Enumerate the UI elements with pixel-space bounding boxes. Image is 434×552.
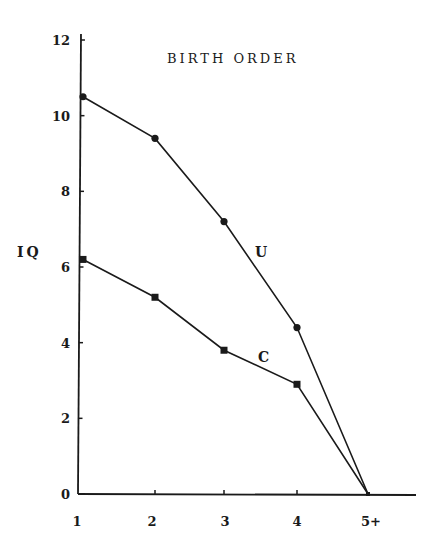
y-tick-label: 2 — [61, 411, 70, 426]
axes — [78, 34, 416, 495]
x-ticks: 12345+ — [72, 490, 381, 529]
square-marker-icon — [80, 256, 87, 263]
y-tick-label: 6 — [61, 260, 70, 275]
series-label: C — [258, 349, 269, 365]
circle-marker-icon — [79, 93, 86, 100]
x-tick-label: 5+ — [361, 514, 381, 529]
y-tick-label: 8 — [61, 184, 70, 199]
series-label: U — [255, 244, 267, 260]
y-tick-label: 4 — [61, 336, 70, 351]
series-line — [83, 259, 368, 494]
y-tick-label: 0 — [61, 487, 70, 502]
square-marker-icon — [152, 294, 159, 301]
x-tick-label: 2 — [147, 514, 156, 529]
x-tick-label: 3 — [220, 514, 229, 529]
data-point — [366, 492, 370, 496]
chart-title: BIRTH ORDER — [167, 51, 299, 66]
series-c: C — [80, 256, 371, 496]
x-tick-label: 1 — [72, 514, 81, 529]
circle-marker-icon — [293, 324, 300, 331]
line-chart: 024681012 12345+ BIRTH ORDER IQ UC — [0, 0, 434, 552]
y-tick-label: 12 — [52, 33, 70, 48]
series-u: U — [79, 93, 370, 496]
x-axis — [78, 494, 416, 495]
circle-marker-icon — [151, 135, 158, 142]
series-group: UC — [79, 93, 370, 496]
square-marker-icon — [221, 347, 228, 354]
y-tick-label: 10 — [52, 109, 70, 124]
y-axis-label: IQ — [17, 244, 42, 260]
y-axis — [78, 34, 81, 494]
square-marker-icon — [294, 381, 301, 388]
x-tick-label: 4 — [292, 514, 301, 529]
circle-marker-icon — [220, 218, 227, 225]
series-line — [83, 97, 368, 494]
